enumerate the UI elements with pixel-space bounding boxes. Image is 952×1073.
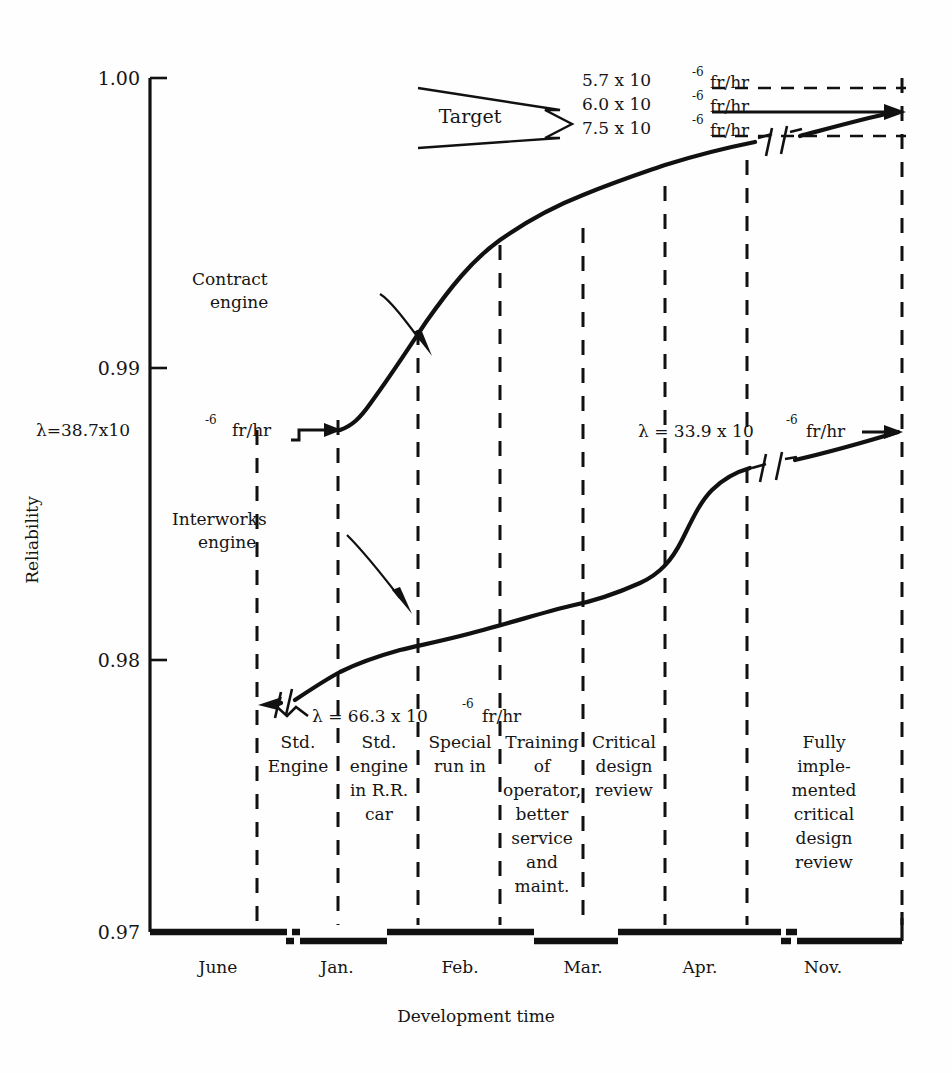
interworks-engine-leader-line bbox=[347, 535, 400, 598]
phase-1-line-1: Std. bbox=[281, 732, 316, 752]
y-tick-label-0-99: 0.99 bbox=[98, 357, 140, 379]
interworks-engine-leader-arrowhead bbox=[392, 587, 412, 614]
phase-4-line-3: operator, bbox=[503, 780, 581, 800]
target-banner: Target bbox=[418, 88, 572, 148]
target-rate-2-value: 6.0 x 10 bbox=[582, 94, 651, 114]
phase-2-line-3: in R.R. bbox=[350, 780, 408, 800]
phase-6-line-4: critical bbox=[794, 804, 854, 824]
phase-2-line-2: engine bbox=[350, 756, 408, 776]
phase-column-5: Critical design review bbox=[592, 732, 656, 800]
reliability-growth-chart: 1.00 0.99 0.98 0.97 Reliability June Jan… bbox=[0, 0, 952, 1073]
phase-column-6: Fully imple- mented critical design revi… bbox=[792, 732, 857, 872]
phase-6-line-6: review bbox=[795, 852, 853, 872]
phase-1-line-2: Engine bbox=[268, 756, 329, 776]
interworks-lambda-start-unit: fr/hr bbox=[482, 706, 522, 726]
phase-2-line-4: car bbox=[365, 804, 394, 824]
phase-column-2: Std. engine in R.R. car bbox=[350, 732, 408, 824]
interworks-lambda-start-exponent: -6 bbox=[462, 697, 474, 711]
contract-curve-break-mark-2 bbox=[781, 126, 787, 154]
contract-curve-break-mark-1 bbox=[766, 128, 772, 156]
phase-6-line-1: Fully bbox=[802, 732, 846, 752]
x-tick-label-feb: Feb. bbox=[441, 957, 478, 977]
interworks-lambda-end-exponent: -6 bbox=[786, 413, 798, 427]
phase-2-line-1: Std. bbox=[362, 732, 397, 752]
x-tick-label-mar: Mar. bbox=[563, 957, 602, 977]
phase-column-3: Special run in bbox=[428, 732, 491, 776]
phase-5-line-2: design bbox=[596, 756, 653, 776]
x-tick-label-apr: Apr. bbox=[682, 957, 718, 977]
interworks-curve-break-mark-1 bbox=[760, 454, 766, 482]
interworks-engine-curve-group bbox=[272, 432, 898, 718]
contract-engine-leader-arrowhead bbox=[413, 329, 432, 356]
target-rate-1-exponent: -6 bbox=[692, 65, 704, 79]
target-rate-1-value: 5.7 x 10 bbox=[582, 70, 651, 90]
chart-page: 1.00 0.99 0.98 0.97 Reliability June Jan… bbox=[0, 0, 952, 1073]
x-tick-label-june: June bbox=[197, 957, 238, 977]
phase-4-line-1: Training bbox=[505, 732, 578, 752]
contract-engine-label-line1: Contract bbox=[192, 269, 268, 289]
interworks-engine-label-line1: Interworks bbox=[172, 509, 267, 529]
interworks-engine-curve-left bbox=[295, 468, 750, 700]
target-rate-3-unit: fr/hr bbox=[710, 120, 750, 140]
phase-3-line-2: run in bbox=[434, 756, 486, 776]
contract-engine-label-line2: engine bbox=[210, 292, 268, 312]
contract-lambda-exponent: -6 bbox=[205, 413, 217, 427]
phase-4-line-4: better bbox=[516, 804, 570, 824]
phase-5-line-3: review bbox=[595, 780, 653, 800]
contract-lambda-value: λ=38.7x10 bbox=[36, 420, 130, 440]
phase-5-line-1: Critical bbox=[592, 732, 656, 752]
contract-engine-label-group: Contract engine bbox=[192, 269, 432, 356]
interworks-lambda-start-group: λ = 66.3 x 10 -6 fr/hr bbox=[258, 697, 522, 726]
target-rate-2-exponent: -6 bbox=[692, 89, 704, 103]
interworks-curve-break-mark-2 bbox=[776, 452, 782, 480]
x-tick-label-jan: Jan. bbox=[318, 957, 353, 977]
target-rate-2-unit: fr/hr bbox=[710, 96, 750, 116]
y-tick-label-0-97: 0.97 bbox=[98, 921, 140, 943]
target-rate-3-exponent: -6 bbox=[692, 113, 704, 127]
interworks-lambda-end-arrowhead bbox=[884, 425, 903, 439]
y-tick-label-1-00: 1.00 bbox=[98, 67, 140, 89]
contract-lambda-group: λ=38.7x10 -6 fr/hr bbox=[36, 413, 342, 440]
interworks-lambda-end-group: λ = 33.9 x 10 -6 fr/hr bbox=[638, 413, 903, 441]
interworks-engine-label-group: Interworks engine bbox=[172, 509, 412, 614]
contract-engine-curve-group bbox=[340, 112, 895, 430]
contract-engine-curve-left bbox=[340, 142, 755, 430]
target-rate-1-unit: fr/hr bbox=[710, 72, 750, 92]
y-axis-title: Reliability bbox=[22, 496, 42, 584]
target-rate-labels: 5.7 x 10 -6 fr/hr 6.0 x 10 -6 fr/hr 7.5 … bbox=[582, 65, 750, 140]
interworks-lambda-start-squiggle bbox=[276, 706, 308, 716]
contract-lambda-leader bbox=[291, 430, 327, 440]
x-tick-label-nov: Nov. bbox=[804, 957, 842, 977]
phase-4-line-7: maint. bbox=[515, 876, 570, 896]
phase-4-line-2: of bbox=[534, 756, 552, 776]
phase-4-line-6: and bbox=[526, 852, 558, 872]
target-rate-3-value: 7.5 x 10 bbox=[582, 118, 651, 138]
interworks-lambda-end-value: λ = 33.9 x 10 bbox=[638, 421, 754, 441]
phase-6-line-2: imple- bbox=[797, 756, 851, 776]
phase-6-line-3: mented bbox=[792, 780, 857, 800]
phase-column-4: Training of operator, better service and… bbox=[503, 732, 581, 896]
interworks-lambda-start-value: λ = 66.3 x 10 bbox=[312, 706, 428, 726]
x-axis-title: Development time bbox=[397, 1006, 555, 1026]
interworks-engine-label-line2: engine bbox=[198, 532, 256, 552]
contract-engine-curve-right bbox=[800, 112, 895, 136]
interworks-lambda-end-unit: fr/hr bbox=[806, 421, 846, 441]
phase-column-1: Std. Engine bbox=[268, 732, 329, 776]
contract-lambda-unit: fr/hr bbox=[232, 420, 272, 440]
y-tick-label-0-98: 0.98 bbox=[98, 649, 140, 671]
contract-curve-break-stub-right bbox=[790, 129, 802, 132]
target-banner-label: Target bbox=[439, 105, 502, 127]
phase-4-line-5: service bbox=[511, 828, 573, 848]
phase-6-line-5: design bbox=[796, 828, 853, 848]
phase-3-line-1: Special bbox=[428, 732, 491, 752]
